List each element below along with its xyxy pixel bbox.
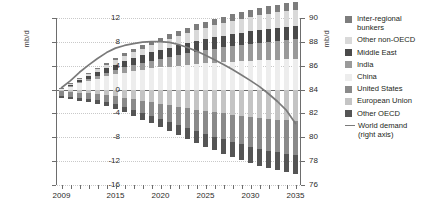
legend-swatch (345, 37, 352, 44)
legend-item-india[interactable]: India (345, 60, 425, 69)
x-tick (269, 185, 270, 189)
bar-segment (266, 6, 272, 14)
legend-swatch (345, 16, 352, 23)
right-tick-label: 78 (309, 157, 318, 165)
left-tick (52, 113, 56, 114)
legend-swatch (345, 74, 352, 81)
bar-segment (293, 2, 299, 10)
x-tick (215, 185, 216, 189)
plot-area (57, 18, 300, 185)
x-axis-ticks: 200920152020202520302035 (57, 185, 300, 191)
x-tick (233, 185, 234, 189)
right-tick-label: 82 (309, 109, 318, 117)
left-tick (52, 137, 56, 138)
legend-item-world-demand[interactable]: World demand(right axis) (345, 121, 425, 139)
x-tick (62, 185, 63, 189)
x-tick (116, 185, 117, 189)
left-tick-label: 4 (116, 62, 120, 70)
right-tick (301, 137, 305, 138)
x-tick (278, 185, 279, 189)
left-axis-title: mb/d (22, 30, 31, 47)
right-tick (301, 113, 305, 114)
left-tick (52, 161, 56, 162)
right-tick-label: 90 (309, 14, 318, 22)
legend-item-middle-east[interactable]: Middle East (345, 48, 425, 57)
legend-label: India (357, 60, 373, 69)
legend-label: Middle East (357, 48, 397, 57)
legend-label: World demand(right axis) (358, 121, 407, 139)
bar-segment (275, 5, 281, 13)
left-tick (52, 185, 56, 186)
x-tick (296, 185, 297, 189)
x-tick (242, 185, 243, 189)
legend-swatch (345, 98, 352, 105)
right-tick (301, 18, 305, 19)
x-tick (206, 185, 207, 189)
legend-label: Other non-OECD (357, 35, 415, 44)
x-tick (197, 185, 198, 189)
left-tick (52, 42, 56, 43)
world-demand-line (57, 18, 300, 185)
chart-figure: mb/d mb/d 12840-4-8-12-16 90888684828078… (0, 0, 426, 223)
x-tick (98, 185, 99, 189)
right-axis-line (300, 18, 301, 185)
legend-item-other-oecd[interactable]: Other OECD (345, 109, 425, 118)
legend-line-marker (345, 125, 355, 126)
legend: Inter-regional bunkersOther non-OECDMidd… (345, 14, 425, 142)
legend-label: Inter-regional bunkers (357, 14, 425, 32)
right-tick (301, 185, 305, 186)
x-tick-label: 2020 (152, 191, 170, 200)
right-tick (301, 161, 305, 162)
right-tick-label: 76 (309, 181, 318, 189)
x-tick-label: 2025 (197, 191, 215, 200)
x-tick-label: 2015 (107, 191, 125, 200)
left-tick-label: 0 (116, 86, 120, 94)
right-tick (301, 66, 305, 67)
legend-sublabel: (right axis) (358, 130, 393, 139)
right-tick (301, 42, 305, 43)
left-tick-label: -8 (113, 133, 120, 141)
legend-swatch (345, 61, 352, 68)
left-axis-line (56, 18, 57, 185)
x-tick (143, 185, 144, 189)
left-tick-label: 8 (116, 38, 120, 46)
left-tick-label: -4 (113, 109, 120, 117)
x-tick (170, 185, 171, 189)
x-tick-label: 2009 (53, 191, 71, 200)
right-axis-title: mb/d (322, 30, 331, 47)
legend-item-european-union[interactable]: European Union (345, 96, 425, 105)
x-tick (89, 185, 90, 189)
bar-segment (284, 3, 290, 11)
x-tick (251, 185, 252, 189)
left-tick (52, 66, 56, 67)
legend-swatch (345, 110, 352, 117)
right-tick (301, 90, 305, 91)
legend-item-united-states[interactable]: United States (345, 84, 425, 93)
x-tick (134, 185, 135, 189)
legend-item-china[interactable]: China (345, 72, 425, 81)
right-tick-label: 86 (309, 62, 318, 70)
right-tick-label: 88 (309, 38, 318, 46)
left-tick-label: -12 (108, 157, 120, 165)
bar-segment (257, 8, 263, 15)
x-tick (125, 185, 126, 189)
x-tick (107, 185, 108, 189)
right-tick-label: 80 (309, 133, 318, 141)
x-tick (71, 185, 72, 189)
x-tick (179, 185, 180, 189)
right-tick-label: 84 (309, 86, 318, 94)
left-tick-label: 12 (111, 14, 120, 22)
legend-swatch (345, 86, 352, 93)
bar-segment (248, 10, 254, 17)
legend-item-other-non-oecd[interactable]: Other non-OECD (345, 35, 425, 44)
x-tick (152, 185, 153, 189)
x-tick (260, 185, 261, 189)
legend-label: United States (357, 84, 403, 93)
legend-item-inter-regional-bunkers[interactable]: Inter-regional bunkers (345, 14, 425, 32)
legend-swatch (345, 49, 352, 56)
x-tick (224, 185, 225, 189)
x-tick (287, 185, 288, 189)
left-tick (52, 18, 56, 19)
left-tick (52, 90, 56, 91)
legend-label: Other OECD (357, 109, 400, 118)
